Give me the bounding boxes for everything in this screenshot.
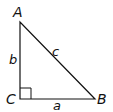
triangle — [20, 22, 95, 99]
right-angle-marker — [20, 88, 31, 99]
side-label-c: c — [52, 44, 59, 59]
vertex-label-b: B — [97, 91, 107, 107]
side-label-a: a — [53, 98, 61, 112]
right-triangle-diagram: A C B b c a — [0, 0, 113, 112]
vertex-label-a: A — [12, 4, 23, 20]
side-label-b: b — [9, 52, 17, 67]
vertex-label-c: C — [6, 91, 16, 107]
